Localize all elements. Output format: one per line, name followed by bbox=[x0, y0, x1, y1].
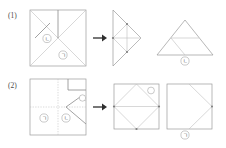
row-1-start-shape: ㄴ ㄱ bbox=[30, 10, 86, 66]
vertex-dot-left bbox=[113, 105, 115, 107]
label-text: ㄴ bbox=[45, 36, 50, 42]
label-text: ㄴ bbox=[64, 115, 69, 121]
figure-canvas: (1) ㄴ ㄱ bbox=[0, 0, 226, 148]
row-2-arrow bbox=[93, 104, 107, 111]
fold-edge-upper bbox=[66, 97, 80, 107]
region-label-center: ㄴ bbox=[62, 114, 70, 122]
marker-circle bbox=[79, 95, 85, 101]
row-2-number: (2) bbox=[8, 81, 17, 90]
row-2-mid-shape bbox=[113, 84, 160, 130]
region-label-left: ㄴ bbox=[43, 34, 51, 42]
vertex-dot-right bbox=[158, 105, 160, 107]
triangle-outline bbox=[157, 20, 213, 55]
square-outline bbox=[167, 84, 212, 129]
row-1-end-caption: ㄴ bbox=[181, 57, 189, 65]
vertex-dot-right bbox=[211, 106, 213, 108]
notch-upper-edge bbox=[189, 84, 212, 107]
caption-text: ㄱ bbox=[183, 132, 188, 138]
marker-circle bbox=[148, 87, 155, 94]
vertex-dot-bottom bbox=[126, 51, 128, 53]
row-1-arrow bbox=[93, 35, 107, 42]
corner-marker-right bbox=[79, 95, 85, 101]
vertex-dot-left bbox=[112, 37, 114, 39]
region-label-bottom: ㄱ bbox=[59, 51, 67, 59]
arrow-head bbox=[102, 104, 107, 111]
vertex-dot-bottom bbox=[135, 128, 137, 130]
notch-lower-edge bbox=[189, 107, 212, 130]
row-1-end-shape: ㄴ bbox=[157, 20, 213, 65]
row-1-mid-shape bbox=[112, 10, 141, 66]
row-1-number: (1) bbox=[8, 11, 17, 20]
inner-slant bbox=[171, 38, 185, 55]
row-2-end-shape: ㄱ bbox=[167, 84, 213, 139]
caption-text: ㄴ bbox=[183, 58, 188, 64]
label-text: ㄱ bbox=[61, 52, 66, 58]
row-2: (2) ㄱ bbox=[8, 79, 213, 139]
vertex-dot-top bbox=[126, 23, 128, 25]
row-1: (1) ㄴ ㄱ bbox=[8, 10, 213, 66]
row-2-end-caption: ㄱ bbox=[181, 131, 189, 139]
paper-folding-figure: (1) ㄴ ㄱ bbox=[0, 0, 226, 148]
arrow-head bbox=[102, 35, 107, 42]
region-label-left: ㄱ bbox=[40, 114, 48, 122]
label-text: ㄱ bbox=[42, 115, 47, 121]
corner-marker-top-right bbox=[148, 87, 155, 94]
row-2-start-shape: ㄱ ㄴ bbox=[30, 79, 86, 135]
